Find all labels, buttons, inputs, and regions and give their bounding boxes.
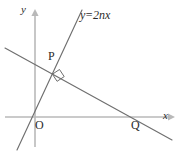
point-q-label: Q [131,119,140,131]
x-axis-arrow-icon [168,113,175,120]
equation-coefficient: 2n [93,8,105,22]
y-axis-arrow-icon [31,9,38,16]
equation-operator: = [85,8,93,22]
x-axis-label: x [163,110,168,121]
geometry-figure: y x O P Q y=2nx [0,0,177,155]
line-through-p-and-q [5,48,172,140]
line-y-equals-2nx [17,10,82,150]
origin-label: O [35,119,44,131]
point-p-label: P [48,50,55,62]
equation-label: y=2nx [80,9,110,21]
equation-variable: x [105,8,110,22]
figure-canvas [0,0,177,155]
y-axis-label: y [21,4,26,15]
